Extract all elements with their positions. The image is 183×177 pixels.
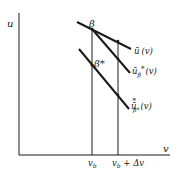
curve-u-bar-beta-star-label: ūβ*(v) (132, 65, 157, 79)
curve-label-main: ū (134, 46, 139, 56)
curve-label-sup: * (132, 97, 136, 105)
curve-label-arg: (v) (140, 101, 151, 111)
tick-vb-sub: b (93, 162, 97, 169)
svg-text:ū*β*(v): ū*β*(v) (131, 97, 152, 114)
tick-vbdv-rest: + Δv (121, 158, 145, 168)
curve-u-bar-star-beta-star-label: ū*β*(v) (131, 97, 152, 114)
curve-label-arg: (v) (141, 46, 152, 56)
svg-text:ū(v): ū(v) (134, 46, 153, 56)
svg-text:ūβ*(v): ūβ*(v) (132, 65, 157, 79)
y-axis-label: u (7, 18, 13, 29)
curve-label-sub: β* (132, 106, 139, 114)
tick-vb-plus-dv: vb + Δv (112, 158, 144, 169)
curve-label-arg: (v) (145, 66, 156, 76)
x-axis-label: v (163, 143, 169, 154)
curve-u-bar-label: ū(v) (134, 46, 153, 56)
tick-vb: vb (88, 158, 97, 169)
point-dv-bottom-dot (117, 94, 120, 97)
curve-u-bar (77, 22, 131, 49)
curve-label-sup: * (141, 65, 145, 73)
point-dv-top-dot (117, 40, 120, 43)
point-beta-star-label: β* (93, 58, 105, 69)
diagram-canvas: u v β β* ū(v) ūβ*(v) ū*β*(v) vb vb + Δv (0, 0, 183, 177)
point-dv-mid-dot (117, 58, 120, 61)
point-beta-label: β (88, 18, 95, 29)
